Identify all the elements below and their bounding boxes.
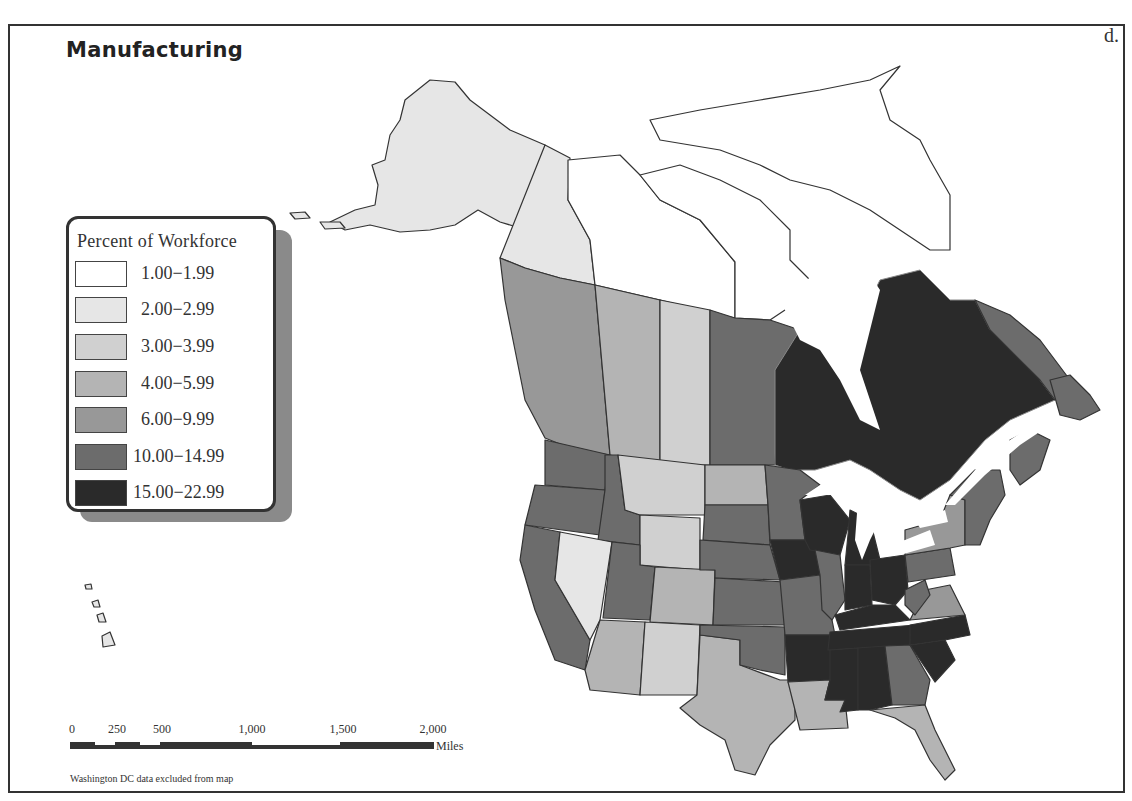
region-alaska[interactable] [330, 80, 545, 238]
scale-tick: 250 [108, 722, 126, 737]
legend-swatch [75, 334, 127, 360]
region-new-mexico[interactable] [640, 622, 700, 695]
legend-swatch [75, 407, 127, 433]
legend-item: 6.00−9.99 [75, 407, 265, 437]
scale-tick: 1,500 [330, 722, 357, 737]
region-newfoundland[interactable] [1050, 375, 1100, 420]
legend-label: 1.00−1.99 [141, 263, 214, 284]
region-wisconsin[interactable] [800, 495, 850, 555]
region-kansas[interactable] [713, 578, 785, 625]
legend-item: 3.00−3.99 [75, 334, 265, 364]
region-hawaii[interactable] [85, 584, 115, 647]
legend-item: 10.00−14.99 [75, 444, 265, 474]
legend-swatch [75, 444, 127, 470]
region-montana[interactable] [618, 455, 705, 515]
legend-swatch [75, 371, 127, 397]
scale-segment [140, 742, 160, 745]
legend-item: 1.00−1.99 [75, 261, 265, 291]
region-saskatchewan[interactable] [660, 300, 710, 465]
region-indiana[interactable] [845, 565, 872, 610]
legend-label: 6.00−9.99 [141, 409, 214, 430]
scale-tick: 0 [69, 722, 75, 737]
legend-label: 2.00−2.99 [141, 299, 214, 320]
scale-tick: 2,000 [420, 722, 447, 737]
panel-letter: d. [1104, 24, 1119, 47]
region-florida[interactable] [870, 705, 955, 780]
map-title: Manufacturing [66, 38, 243, 62]
footnote: Washington DC data excluded from map [70, 773, 233, 784]
region-ohio[interactable] [870, 555, 908, 605]
legend-swatch [75, 480, 127, 506]
region-arkansas[interactable] [785, 635, 835, 682]
scale-segment [252, 742, 340, 745]
region-north-dakota[interactable] [705, 465, 768, 505]
legend-label: 3.00−3.99 [141, 336, 214, 357]
legend-label: 15.00−22.99 [133, 482, 224, 503]
legend-swatch [75, 261, 127, 287]
scale-segment [95, 742, 115, 745]
legend: Percent of Workforce 1.00−1.99 2.00−2.99… [66, 216, 276, 512]
scale-tick: 500 [153, 722, 171, 737]
legend-item: 2.00−2.99 [75, 297, 265, 327]
legend-swatch [75, 297, 127, 323]
scale-units: Miles [436, 739, 463, 754]
region-wyoming[interactable] [640, 515, 700, 570]
region-british-columbia[interactable] [500, 258, 610, 455]
legend-label: 10.00−14.99 [133, 446, 224, 467]
legend-item: 4.00−5.99 [75, 371, 265, 401]
region-south-dakota[interactable] [703, 505, 770, 545]
region-colorado[interactable] [650, 567, 715, 625]
legend-title: Percent of Workforce [77, 231, 237, 252]
scale-tick: 1,000 [239, 722, 266, 737]
legend-item: 15.00−22.99 [75, 480, 265, 510]
legend-label: 4.00−5.99 [141, 373, 214, 394]
